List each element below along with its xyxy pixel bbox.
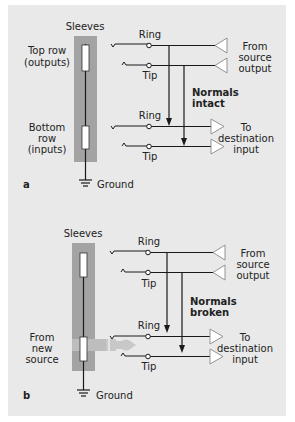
bottom-ring-label: Ring [139, 110, 161, 121]
bottom-ring-label: Ring [138, 320, 160, 331]
top-ring-contact [147, 43, 152, 48]
dest-label-3: input [233, 144, 259, 155]
top-sleeve-contact [82, 45, 89, 71]
top-ring-label: Ring [138, 236, 160, 247]
bottom-tip-label: Tip [142, 151, 158, 162]
top-tip-label: Tip [141, 278, 157, 289]
top-ring-label: Ring [139, 29, 161, 40]
top-sleeve-contact [80, 253, 87, 277]
bottom-row-sublabel: (inputs) [28, 144, 67, 155]
sleeves-label: Sleeves [66, 21, 105, 32]
ground-label: Ground [96, 390, 133, 401]
dest-label-2: destination [218, 133, 274, 144]
source-label-3: output [237, 270, 270, 281]
dest-label-3: input [232, 354, 258, 365]
top-tip-contact [147, 63, 152, 68]
top-row-sublabel: (outputs) [24, 57, 70, 68]
bottom-sleeve-contact [80, 337, 87, 361]
normals-state-label: broken [190, 307, 229, 318]
dest-label-1: To [239, 332, 251, 343]
source-label-1: From [241, 248, 266, 259]
source-label-2: source [236, 259, 269, 270]
panel-letter: a [23, 179, 30, 190]
bottom-sleeve-contact [82, 126, 89, 149]
bottom-ring-contact [146, 334, 151, 339]
sleeves-label: Sleeves [64, 228, 103, 239]
bottom-tip-label: Tip [141, 361, 157, 372]
top-tip-contact [146, 270, 151, 275]
new-source-label-3: source [25, 354, 58, 365]
dest-label-2: destination [217, 343, 273, 354]
dest-label-1: To [240, 122, 252, 133]
new-source-label-2: new [32, 343, 53, 354]
normals-label: Normals [190, 296, 237, 307]
patchbay-normals-diagram: Sleeves Top row (outputs) Bottom row (in… [0, 0, 295, 422]
normals-state-label: intact [192, 98, 225, 109]
source-label-2: source [238, 52, 271, 63]
top-ring-contact [146, 250, 151, 255]
bottom-tip-contact [147, 144, 152, 149]
bottom-tip-contact [146, 354, 151, 359]
source-label-1: From [243, 41, 268, 52]
ground-label: Ground [97, 179, 134, 190]
bottom-ring-contact [147, 124, 152, 129]
top-tip-label: Tip [142, 70, 158, 81]
top-row-label: Top row [27, 45, 66, 56]
panel-letter: b [23, 390, 30, 401]
normals-label: Normals [192, 87, 239, 98]
bottom-row-label-2: row [38, 133, 56, 144]
source-label-3: output [239, 63, 272, 74]
new-source-label-1: From [30, 332, 55, 343]
bottom-row-label: Bottom [29, 122, 66, 133]
